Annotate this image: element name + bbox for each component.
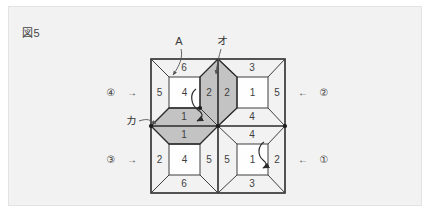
side-marker-left-bottom: ③ →	[107, 154, 137, 165]
br-diagonal-brc	[268, 175, 285, 193]
tr-right-number: 5	[274, 87, 280, 98]
side-marker-right-top-arrow: ←	[298, 87, 308, 98]
pivot-dot-left	[149, 124, 153, 128]
side-marker-left-top-label: ④	[107, 87, 116, 98]
br-right-number: 2	[274, 154, 280, 165]
bl-left-number: 2	[157, 154, 163, 165]
bl-diagonal-blc	[151, 175, 169, 193]
br-diagonal-trc	[268, 126, 285, 144]
callout-label-o: オ	[217, 35, 228, 47]
tr-bottom-number: 4	[249, 111, 255, 122]
tr-diagonal-trc	[268, 59, 285, 77]
br-bottom-number: 3	[249, 178, 255, 189]
diagram-stage: 6 5 4 2 1 3 2 1 5 4 1 2 4 5 6 4	[0, 0, 432, 220]
side-marker-left-bottom-arrow: →	[127, 154, 137, 165]
side-marker-left-top: ④ →	[107, 87, 137, 98]
side-marker-right-top-label: ②	[320, 87, 329, 98]
pivot-dot-hinge-a	[198, 106, 202, 110]
tr-center-number: 1	[250, 87, 256, 98]
tr-top-number: 3	[249, 62, 255, 73]
side-marker-right-bottom: ← ①	[298, 154, 328, 165]
tl-top-number: 6	[181, 62, 187, 73]
side-marker-left-top-arrow: →	[127, 87, 137, 98]
side-marker-right-bottom-label: ①	[320, 154, 329, 165]
bl-diagonal-brc	[200, 175, 218, 193]
br-left-number: 5	[224, 154, 230, 165]
tr-diagonal-brc	[268, 108, 285, 126]
pivot-dot-right	[283, 124, 287, 128]
bl-right-number: 5	[206, 154, 212, 165]
br-center-number: 1	[250, 154, 256, 165]
side-marker-right-top: ← ②	[298, 87, 328, 98]
tl-right-number: 2	[206, 87, 212, 98]
br-top-number: 4	[249, 129, 255, 140]
br-diagonal-blc	[218, 175, 237, 193]
tr-left-number: 2	[224, 87, 230, 98]
tl-diagonal-tlc	[151, 59, 169, 77]
quadrant-bottom-right: 4 5 1 2 3	[218, 126, 285, 193]
side-marker-right-bottom-arrow: ←	[298, 154, 308, 165]
tl-center-number: 4	[182, 87, 188, 98]
tl-left-number: 5	[157, 87, 163, 98]
bl-top-number: 1	[181, 129, 187, 140]
bl-bottom-number: 6	[181, 178, 187, 189]
callout-label-ka: カ	[126, 115, 137, 127]
bl-center-number: 4	[182, 154, 188, 165]
tl-bottom-number: 1	[181, 111, 187, 122]
callout-label-a: A	[175, 35, 183, 47]
br-diagonal-tlc	[218, 126, 237, 144]
pivot-dot-center	[216, 124, 220, 128]
side-marker-left-bottom-label: ③	[107, 154, 116, 165]
cube-net-diagram: 6 5 4 2 1 3 2 1 5 4 1 2 4 5 6 4	[0, 0, 432, 220]
